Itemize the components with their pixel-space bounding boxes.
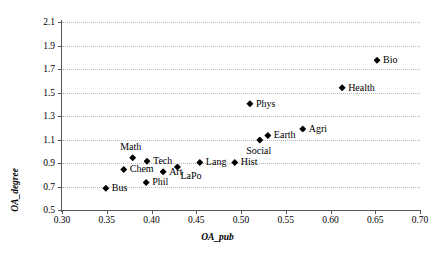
- data-point-label: Phys: [256, 99, 275, 109]
- gridline: [62, 22, 420, 23]
- y-tick-label: 1.9: [43, 41, 55, 51]
- x-tick-label: 0.65: [367, 215, 384, 225]
- x-tick-label: 0.55: [277, 215, 294, 225]
- x-tick-mark: [331, 210, 332, 214]
- data-point-label: Bus: [112, 183, 128, 193]
- data-point-label: Health: [348, 83, 375, 93]
- x-tick-label: 0.70: [412, 215, 429, 225]
- gridline: [62, 46, 420, 47]
- data-point-label: Bio: [383, 55, 397, 65]
- x-tick-mark: [375, 210, 376, 214]
- x-tick-mark: [62, 210, 63, 214]
- data-point-label: Chem: [130, 164, 154, 174]
- y-tick-label: 1.1: [43, 135, 55, 145]
- x-axis-title: OA_pub: [0, 232, 435, 242]
- y-axis-title: OA_degree: [10, 168, 20, 212]
- x-tick-label: 0.60: [322, 215, 339, 225]
- x-tick-mark: [286, 210, 287, 214]
- x-tick-label: 0.35: [98, 215, 115, 225]
- x-tick-mark: [241, 210, 242, 214]
- gridline: [62, 140, 420, 141]
- scatter-chart: 0.50.70.91.11.31.51.71.92.1 0.300.350.40…: [0, 0, 435, 262]
- data-point-label: Phil: [152, 177, 168, 187]
- x-tick-label: 0.45: [188, 215, 205, 225]
- data-point-label: Tech: [153, 156, 172, 166]
- y-tick-label: 1.3: [43, 111, 55, 121]
- data-point-label: Hist: [241, 157, 258, 167]
- data-point-label: Agri: [309, 124, 327, 134]
- y-tick-mark: [58, 22, 62, 23]
- y-tick-mark: [58, 46, 62, 47]
- data-point-label: Lang: [206, 157, 227, 167]
- y-tick-mark: [58, 140, 62, 141]
- y-tick-label: 0.9: [43, 158, 55, 168]
- data-point-label: Social: [246, 146, 271, 156]
- y-tick-label: 2.1: [43, 17, 55, 27]
- y-tick-mark: [58, 187, 62, 188]
- x-tick-mark: [152, 210, 153, 214]
- gridline: [62, 69, 420, 70]
- y-tick-mark: [58, 163, 62, 164]
- y-tick-label: 1.7: [43, 64, 55, 74]
- x-tick-mark: [420, 210, 421, 214]
- y-tick-label: 0.7: [43, 182, 55, 192]
- data-point-label: Math: [120, 142, 141, 152]
- y-tick-label: 1.5: [43, 88, 55, 98]
- data-point-label: LaPo: [180, 171, 201, 181]
- y-tick-mark: [58, 116, 62, 117]
- gridline: [62, 116, 420, 117]
- x-tick-label: 0.50: [233, 215, 250, 225]
- data-point-label: Earth: [274, 130, 296, 140]
- y-tick-label: 0.5: [43, 205, 55, 215]
- x-tick-label: 0.40: [143, 215, 160, 225]
- y-tick-mark: [58, 93, 62, 94]
- x-tick-label: 0.30: [54, 215, 71, 225]
- x-tick-mark: [196, 210, 197, 214]
- y-tick-mark: [58, 69, 62, 70]
- x-tick-mark: [107, 210, 108, 214]
